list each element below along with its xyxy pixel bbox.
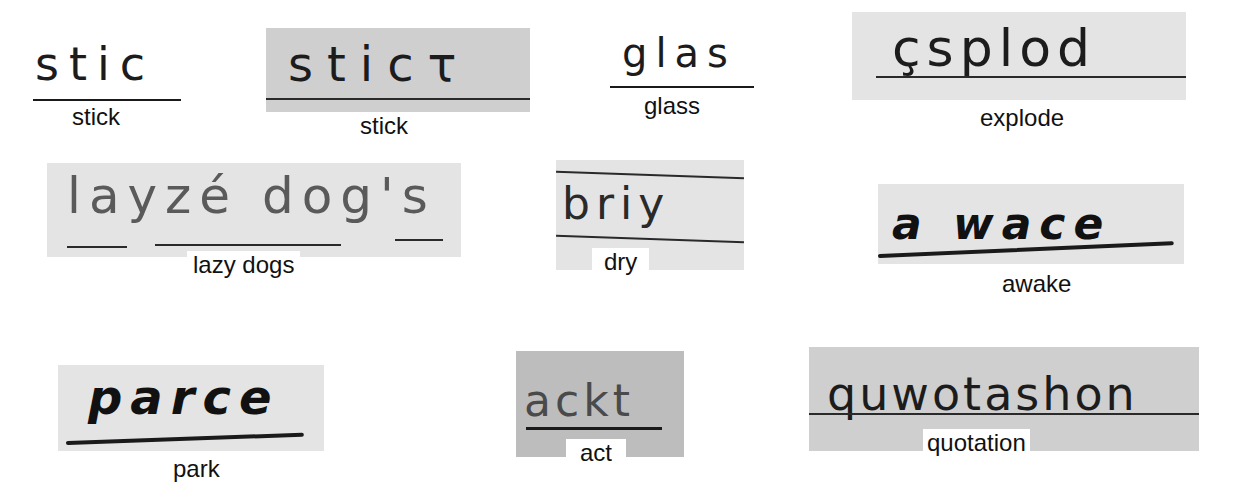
notebook-line: [266, 98, 530, 100]
scan-image: çsplod: [852, 12, 1186, 100]
correct-word-label: glass: [644, 92, 700, 120]
handwritten-word: parce: [88, 369, 279, 425]
sample-park: parce park: [58, 365, 326, 485]
sample-awake: a wace awake: [878, 184, 1186, 300]
handwritten-word: layzé dog's: [67, 167, 436, 225]
correct-word-label: quotation: [923, 429, 1030, 457]
answer-blank-3: [395, 239, 443, 241]
correct-word-label: lazy dogs: [187, 251, 300, 279]
handwritten-word: a wace: [892, 198, 1111, 249]
sample-act: ackt act: [516, 351, 686, 471]
sample-dry: briy dry: [556, 160, 746, 272]
sample-quotation: quwotashon quotation: [809, 347, 1201, 455]
correct-word-label: park: [173, 455, 220, 483]
sample-explode: çsplod explode: [852, 12, 1188, 137]
answer-blank-2: [155, 244, 341, 246]
handwritten-word: sticτ: [288, 36, 470, 92]
correct-word-label: stick: [72, 103, 120, 131]
correct-word-label: dry: [592, 248, 649, 276]
sample-stick-1: stic stick: [30, 35, 185, 135]
baseline-rule: [610, 86, 754, 88]
scan-image: parce: [58, 365, 324, 451]
handwritten-word: çsplod: [892, 18, 1096, 78]
correct-word-label: act: [566, 439, 626, 467]
sample-lazy-dogs: layzé dog's lazy dogs: [47, 163, 461, 283]
notebook-line: [876, 76, 1186, 78]
baseline-rule: [66, 433, 304, 445]
scan-image: a wace: [878, 184, 1184, 264]
notebook-line: [809, 413, 1199, 415]
sample-glass: glas glass: [608, 28, 758, 128]
handwritten-word: glas: [622, 30, 736, 76]
answer-blank-1: [67, 246, 127, 248]
handwritten-word: ackt: [524, 375, 634, 426]
correct-word-label: awake: [1002, 270, 1071, 298]
scan-image: sticτ: [266, 28, 530, 112]
baseline-rule: [526, 427, 662, 430]
correct-word-label: stick: [354, 112, 414, 140]
handwritten-word: briy: [562, 178, 670, 229]
correct-word-label: explode: [980, 104, 1064, 132]
sample-stick-2: sticτ stick: [266, 28, 532, 143]
baseline-rule: [33, 99, 181, 101]
scan-image: layzé dog's: [47, 163, 461, 257]
handwritten-word: stic: [35, 37, 155, 91]
scan-image: briy: [556, 160, 744, 270]
notebook-line-bottom: [556, 235, 744, 244]
